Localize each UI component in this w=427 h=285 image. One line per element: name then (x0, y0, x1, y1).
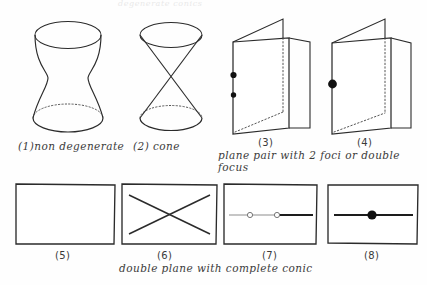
figure-4-label: (4) (357, 137, 372, 148)
figure-6-label: (6) (157, 250, 172, 261)
bottom-ellipse-back-arc (33, 104, 103, 118)
plane-pair-caption-line-2: focus (218, 161, 249, 174)
figure-3-label: (3) (258, 137, 273, 148)
right-silhouette (88, 35, 103, 118)
figure-5-label: (5) (55, 250, 70, 261)
figure-double-cone (126, 14, 216, 138)
figure-plane-pair-double-focus (325, 16, 417, 138)
front-plane (233, 38, 289, 134)
bottom-ellipse-front-arc (33, 118, 103, 132)
plane-rectangle (16, 184, 115, 244)
figure-8-label: (8) (364, 250, 379, 261)
figure-2-label: (2) cone (133, 140, 180, 153)
figure-plane-with-crossing-lines (120, 182, 220, 248)
cropped-header-text: degenerate conics (118, 0, 202, 8)
focus-circle-right (274, 212, 279, 217)
figure-1-label: (1)non degenerate (18, 140, 124, 153)
double-focus-dot (328, 80, 337, 89)
figure-plane-line-double-focus (325, 182, 421, 248)
double-focus-dot (367, 210, 376, 219)
left-silhouette (33, 35, 48, 118)
figure-hyperboloid-of-one-sheet (20, 14, 116, 138)
bottom-ellipse-front-arc (140, 118, 202, 131)
figure-plane-line-two-foci (222, 182, 320, 248)
figure-plate: degenerate conics (1)non degenerate (0, 0, 427, 285)
front-plane (332, 38, 391, 134)
figure-empty-plane (14, 182, 118, 248)
figure-plane-pair-two-foci (226, 16, 318, 138)
top-ellipse (140, 23, 202, 48)
back-plane-right-edge (289, 38, 310, 128)
double-plane-caption: double plane with complete conic (119, 262, 313, 275)
focus-dot-upper (230, 72, 236, 78)
figure-7-label: (7) (262, 250, 277, 261)
focus-circle-left (247, 212, 252, 217)
back-plane-right-edge (391, 38, 411, 128)
bottom-ellipse-back-arc (140, 106, 202, 119)
focus-dot-lower (231, 92, 236, 97)
plane-pair-caption-line-1: plane pair with 2 foci or double (218, 149, 400, 162)
top-ellipse (35, 22, 101, 49)
